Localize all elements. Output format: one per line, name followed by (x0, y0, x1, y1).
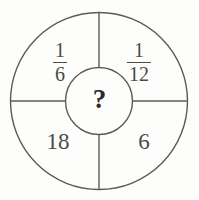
quadrant-label-top-left: 1 6 (38, 40, 82, 85)
fraction-denominator: 6 (53, 64, 67, 85)
fraction-denominator: 12 (127, 64, 151, 85)
quadrant-label-bottom-right: 6 (122, 130, 166, 153)
center-unknown-value: ? (66, 86, 133, 113)
quadrant-label-bottom-left: 18 (36, 130, 80, 153)
fraction-top-right: 1 12 (127, 40, 151, 85)
fraction-top-left: 1 6 (53, 40, 67, 85)
fraction-numerator: 1 (127, 40, 151, 61)
fraction-numerator: 1 (53, 40, 67, 61)
quadrant-label-top-right: 1 12 (116, 40, 162, 85)
circle-puzzle-figure: 1 6 1 12 18 6 ? (0, 0, 199, 200)
